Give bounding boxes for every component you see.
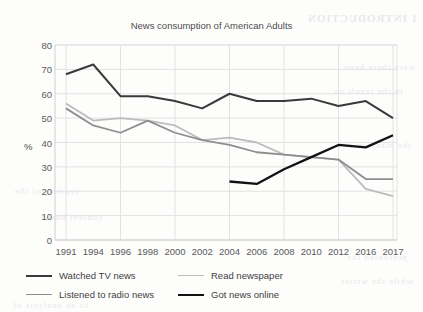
x-tick-label: 2017 bbox=[382, 246, 403, 257]
x-tick-label: 2000 bbox=[164, 246, 185, 257]
x-tick-label: 2016 bbox=[355, 246, 376, 257]
x-tick-label: 2008 bbox=[273, 246, 294, 257]
legend-swatch-line-icon bbox=[26, 275, 52, 277]
legend-label: Listened to radio news bbox=[59, 289, 154, 300]
x-tick-label: 2010 bbox=[301, 246, 322, 257]
legend-swatch-line-icon bbox=[178, 275, 204, 276]
legend-item[interactable]: Listened to radio news bbox=[26, 289, 178, 300]
legend-item[interactable]: Got news online bbox=[178, 289, 279, 300]
x-tick-label: 2006 bbox=[246, 246, 267, 257]
legend-label: Watched TV news bbox=[59, 270, 136, 281]
x-tick-label: 1994 bbox=[83, 246, 104, 257]
x-tick-label: 2012 bbox=[328, 246, 349, 257]
legend-label: Got news online bbox=[211, 289, 279, 300]
legend-row: Listened to radio newsGot news online bbox=[26, 285, 356, 304]
x-tick-label: 1996 bbox=[110, 246, 131, 257]
x-tick-label: 2004 bbox=[219, 246, 240, 257]
chart-legend: Watched TV newsRead newspaperListened to… bbox=[26, 266, 356, 304]
x-tick-label: 1991 bbox=[55, 246, 76, 257]
legend-item[interactable]: Watched TV news bbox=[26, 270, 178, 281]
legend-row: Watched TV newsRead newspaper bbox=[26, 266, 356, 285]
x-tick-label: 2002 bbox=[192, 246, 213, 257]
x-tick-label: 1998 bbox=[137, 246, 158, 257]
legend-swatch-line-icon bbox=[178, 294, 204, 296]
line-chart: News consumption of American Adults % 01… bbox=[0, 0, 423, 312]
legend-label: Read newspaper bbox=[211, 270, 283, 281]
legend-item[interactable]: Read newspaper bbox=[178, 270, 283, 281]
legend-swatch-line-icon bbox=[26, 294, 52, 295]
